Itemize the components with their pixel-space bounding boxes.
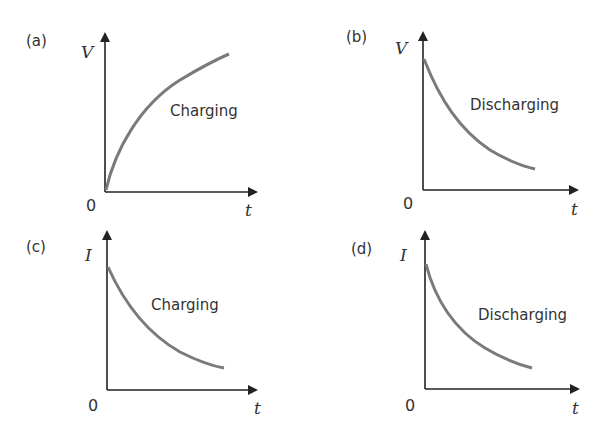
panel-b: (b) V Discharging 0 t (346, 28, 578, 219)
panel-c: (c) I Charging 0 t (26, 232, 261, 418)
panel-label: (a) (26, 32, 47, 50)
y-axis-label: V (395, 38, 409, 58)
y-axis-label: V (81, 42, 95, 62)
charging-current-curve (108, 267, 224, 368)
x-axis-label: t (571, 199, 578, 219)
curve-caption: Discharging (470, 96, 559, 114)
y-axis-label: I (84, 245, 92, 265)
curve-caption: Discharging (478, 306, 567, 324)
capacitor-graphs-figure: (a) V Charging 0 t (b) V Discharging 0 t… (0, 0, 598, 427)
origin-label: 0 (405, 396, 415, 415)
x-axis-label: t (572, 398, 579, 418)
panel-label: (c) (26, 238, 46, 256)
panel-label: (d) (351, 240, 372, 258)
panel-label: (b) (346, 28, 367, 46)
origin-label: 0 (86, 196, 96, 215)
panel-d: (d) I Discharging 0 t (351, 232, 579, 418)
origin-label: 0 (403, 194, 413, 213)
x-axis-label: t (245, 200, 252, 220)
curve-caption: Charging (170, 102, 238, 120)
charging-voltage-curve (106, 54, 229, 190)
panel-a: (a) V Charging 0 t (26, 32, 256, 220)
discharging-voltage-curve (424, 59, 535, 169)
y-axis-label: I (399, 245, 407, 265)
x-axis-label: t (254, 398, 261, 418)
origin-label: 0 (88, 396, 98, 415)
curve-caption: Charging (151, 296, 219, 314)
